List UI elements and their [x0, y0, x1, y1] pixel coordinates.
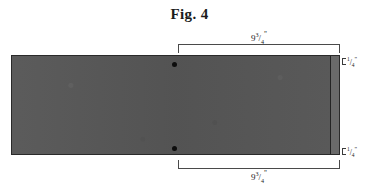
edge-bracket-bottom-icon [342, 148, 346, 155]
dimension-top-unit: " [264, 31, 267, 39]
dimension-bottom-unit: " [264, 170, 267, 178]
dimension-bracket-bottom [178, 160, 340, 169]
panel-texture [12, 56, 339, 154]
hole-marker-top [172, 62, 177, 67]
panel-right-edge-strip [330, 56, 339, 154]
edge-top-unit: " [355, 55, 358, 62]
edge-top-denominator: 4 [352, 62, 355, 68]
figure-sheet: Fig. 4 93/4" 93/4" 1/4" 1/4" [0, 0, 379, 195]
edge-dimension-top: 1/4" [342, 55, 357, 69]
dimension-top-fraction: 3/4 [256, 32, 265, 45]
dimension-bracket-top [178, 44, 340, 53]
edge-bottom-denominator: 4 [352, 152, 355, 158]
figure-caption: Fig. 4 [0, 6, 379, 23]
edge-bottom-fraction: 1/4 [347, 147, 355, 159]
edge-bottom-unit: " [355, 145, 358, 152]
dimension-label-bottom: 93/4" [178, 170, 340, 184]
edge-dimension-top-text: 1/4" [347, 55, 357, 69]
dimension-label-top: 93/4" [178, 31, 340, 45]
hole-marker-bottom [172, 146, 177, 151]
panel-body [11, 55, 340, 155]
edge-dimension-bottom: 1/4" [342, 145, 357, 159]
dimension-bottom-fraction: 3/4 [256, 171, 265, 184]
dimension-bottom-denominator: 4 [261, 178, 264, 184]
edge-dimension-bottom-text: 1/4" [347, 145, 357, 159]
edge-bracket-top-icon [342, 58, 346, 65]
edge-top-fraction: 1/4 [347, 57, 355, 69]
